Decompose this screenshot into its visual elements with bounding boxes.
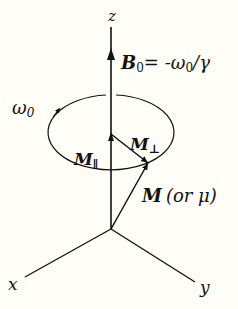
x-axis [25, 229, 111, 277]
b0-arrowhead-icon [107, 48, 115, 60]
y-axis-label: y [199, 277, 210, 297]
m-vector-label: M(or μ) [141, 185, 217, 206]
m-perp-label: M⊥ [129, 134, 160, 156]
y-axis [111, 229, 195, 282]
x-axis-label: x [8, 274, 18, 294]
z-axis-label: z [107, 7, 116, 25]
precession-diagram: z x y B0= -ω0/γ ω0 M⊥ M∥ M(or μ) [0, 0, 238, 309]
b0-equation: B0= -ω0/γ [120, 52, 210, 75]
m-parallel-label: M∥ [73, 149, 99, 171]
omega0-label: ω0 [12, 97, 35, 120]
rotation-arrow-icon [53, 108, 60, 117]
